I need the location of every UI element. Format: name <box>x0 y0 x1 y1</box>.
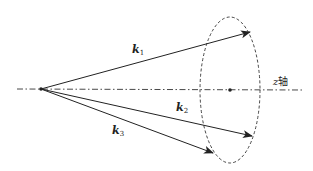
cone-wave-vector-diagram: k1 k2 k3 z轴 <box>0 0 313 171</box>
ellipse-center-dot <box>228 88 232 92</box>
z-axis-line <box>17 89 303 90</box>
label-k1: k1 <box>132 44 144 57</box>
label-k1-sub: 1 <box>140 49 144 57</box>
label-k3: k3 <box>112 125 124 138</box>
z-axis-label-text: 轴 <box>278 76 288 87</box>
z-axis-label: z轴 <box>273 77 288 87</box>
label-k3-base: k <box>112 124 120 137</box>
label-k1-base: k <box>132 43 140 56</box>
vector-k2-arrow <box>41 89 252 136</box>
vector-k1-arrow <box>41 32 250 89</box>
vector-k3-arrow <box>41 89 213 153</box>
label-k3-sub: 3 <box>120 130 124 138</box>
diagram-graphics <box>0 0 313 171</box>
label-k2-sub: 2 <box>184 107 188 115</box>
label-k2: k2 <box>176 102 188 115</box>
label-k2-base: k <box>176 101 184 114</box>
